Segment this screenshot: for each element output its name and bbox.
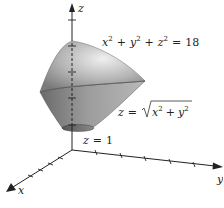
x-axis-label: x	[18, 184, 25, 197]
sphere-equation: x2+y2+z2=18	[102, 35, 199, 49]
cone-equation: z= x2+y2	[117, 101, 192, 119]
solid-region-diagram: z y x x2+y2+z2=18 z= x2+y2 z=1	[0, 0, 223, 208]
svg-text:z=1: z=1	[82, 134, 113, 147]
plane-equation: z=1	[82, 134, 113, 147]
bottom-disk	[62, 125, 94, 132]
y-axis-label: y	[216, 173, 223, 186]
x-axis	[13, 150, 72, 187]
z-axis-label: z	[77, 2, 84, 15]
svg-text:x2+y2+z2=18: x2+y2+z2=18	[102, 35, 199, 49]
y-axis-ticks	[95, 150, 195, 167]
svg-text:x2+y2: x2+y2	[152, 105, 189, 119]
y-axis-arrow-icon	[213, 163, 224, 170]
x-axis-arrow-icon	[6, 183, 16, 192]
z-axis-arrow-icon	[69, 3, 75, 12]
svg-text:z=: z=	[117, 106, 137, 119]
